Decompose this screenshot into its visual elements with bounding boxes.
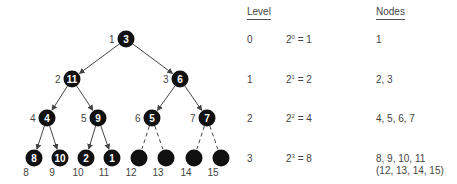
level-nodes: 2, 3 xyxy=(376,74,393,86)
tree-node: 63 xyxy=(163,71,189,88)
node-index: 3 xyxy=(163,74,169,85)
tree-edge xyxy=(37,126,44,149)
tree-edge xyxy=(50,126,57,149)
tree-edge xyxy=(133,44,173,73)
node-index: 1 xyxy=(109,34,115,45)
node-index: 14 xyxy=(180,167,192,178)
level-formula: 20 = 1 xyxy=(286,34,312,46)
node-value: 10 xyxy=(54,153,66,164)
node-index: 5 xyxy=(81,113,87,124)
node-circle xyxy=(131,150,148,167)
node-value: 4 xyxy=(44,113,50,124)
node-value: 3 xyxy=(123,34,129,45)
level-value: 3 xyxy=(247,153,253,165)
nodes-header-text: Nodes xyxy=(376,6,405,20)
tree-node: 109 xyxy=(49,150,68,179)
tree-edge xyxy=(155,126,163,149)
node-value: 7 xyxy=(204,113,210,124)
level-value: 0 xyxy=(247,34,253,46)
tree-node: 15 xyxy=(207,150,229,179)
binary-heap-tree: 3111263449556778810921011112131415 xyxy=(0,0,240,184)
node-index: 8 xyxy=(23,167,29,178)
level-header-text: Level xyxy=(247,6,271,20)
tree-edge xyxy=(77,86,93,110)
tree-node: 12 xyxy=(125,150,147,179)
tree-edge xyxy=(197,126,204,149)
node-circle xyxy=(158,150,175,167)
tree-node: 210 xyxy=(72,150,94,179)
tree-node: 88 xyxy=(23,150,42,179)
tree-edge xyxy=(185,86,202,110)
node-index: 15 xyxy=(207,167,219,178)
node-value: 6 xyxy=(177,74,183,85)
node-value: 2 xyxy=(83,153,89,164)
tree-edge xyxy=(142,126,149,149)
level-value: 1 xyxy=(247,74,253,86)
node-index: 13 xyxy=(152,167,164,178)
tree-edge xyxy=(89,126,96,149)
tree-node: 44 xyxy=(30,110,56,127)
node-value: 11 xyxy=(67,74,78,85)
tree-edge xyxy=(210,126,218,149)
tree-node: 14 xyxy=(180,150,202,179)
node-value: 8 xyxy=(31,153,37,164)
node-index: 10 xyxy=(72,167,84,178)
level-formula: 22 = 4 xyxy=(286,113,312,125)
node-value: 9 xyxy=(95,113,101,124)
node-circle xyxy=(186,150,203,167)
level-formula: 21 = 2 xyxy=(286,74,312,86)
node-index: 11 xyxy=(99,167,110,178)
tree-node: 112 xyxy=(55,71,81,88)
node-index: 7 xyxy=(190,113,196,124)
node-index: 4 xyxy=(30,113,36,124)
tree-node: 56 xyxy=(135,110,161,127)
tree-edge xyxy=(101,126,109,149)
node-value: 1 xyxy=(109,153,115,164)
node-circle xyxy=(213,150,230,167)
tree-node: 13 xyxy=(152,150,174,179)
tree-node: 31 xyxy=(109,31,135,48)
tree-node: 111 xyxy=(99,150,121,179)
level-header: Level xyxy=(247,6,271,18)
tree-edge xyxy=(52,86,67,110)
nodes-header: Nodes xyxy=(376,6,405,18)
level-nodes: 1 xyxy=(376,34,382,46)
tree-node: 95 xyxy=(81,110,107,127)
node-index: 9 xyxy=(49,167,55,178)
level-nodes: 8, 9, 10, 11(12, 13, 14, 15) xyxy=(376,153,444,177)
tree-edge xyxy=(158,86,176,110)
tree-edge xyxy=(80,44,120,73)
level-value: 2 xyxy=(247,113,253,125)
level-nodes: 4, 5, 6, 7 xyxy=(376,113,415,125)
node-index: 6 xyxy=(135,113,141,124)
tree-node: 77 xyxy=(190,110,216,127)
level-formula: 23 = 8 xyxy=(286,153,312,165)
node-index: 2 xyxy=(55,74,61,85)
node-index: 12 xyxy=(125,167,137,178)
node-value: 5 xyxy=(149,113,155,124)
